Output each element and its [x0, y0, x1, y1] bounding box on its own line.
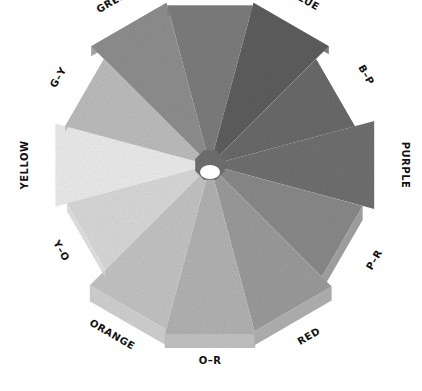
- wheel-hub: [195, 150, 225, 180]
- label-p-r: P–R: [364, 248, 384, 272]
- hub-hole: [200, 165, 220, 179]
- color-wheel: YELLOWG–YGREENG–BBLUEB–PPURPLEP–RREDO–RO…: [0, 0, 422, 391]
- label-yellow: YELLOW: [19, 141, 30, 191]
- label-y-o: Y–O: [51, 237, 72, 263]
- label-b-p: B–P: [356, 63, 376, 87]
- segment-rim-o-r: [165, 334, 256, 348]
- label-g-y: G–Y: [48, 65, 69, 90]
- label-green: GREEN: [94, 0, 135, 15]
- label-red: RED: [295, 325, 322, 347]
- label-blue: BLUE: [289, 0, 321, 12]
- label-o-r: O–R: [199, 355, 222, 366]
- label-purple: PURPLE: [400, 142, 411, 189]
